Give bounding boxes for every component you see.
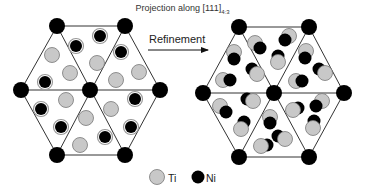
vertex-atom-icon bbox=[301, 19, 317, 35]
ni-atom-icon bbox=[296, 75, 309, 88]
ni-atom-icon bbox=[192, 171, 205, 184]
panel-after-refinement bbox=[195, 19, 352, 165]
lattice-diagram bbox=[0, 0, 365, 192]
legend-ti-label: Ti bbox=[168, 172, 176, 184]
vertex-atom-icon bbox=[117, 18, 133, 34]
vertex-atom-icon bbox=[49, 18, 65, 34]
ni-atom-icon bbox=[264, 117, 277, 130]
title-text: Projection along [111] bbox=[135, 3, 221, 13]
ni-atom-icon bbox=[299, 52, 312, 65]
vertex-atom-icon bbox=[301, 149, 317, 165]
ni-atom-icon bbox=[220, 106, 233, 119]
ti-atom-icon bbox=[45, 48, 60, 63]
diagram-stage: Projection along [111]4:3 Refinement Ti … bbox=[0, 0, 365, 192]
figure-title: Projection along [111]4:3 bbox=[0, 3, 365, 15]
legend-markers bbox=[150, 170, 205, 185]
ti-atom-icon bbox=[246, 94, 261, 109]
ti-atom-icon bbox=[63, 66, 78, 81]
ni-atom-icon bbox=[129, 93, 141, 105]
ti-atom-icon bbox=[79, 111, 94, 126]
ti-atom-icon bbox=[73, 138, 88, 153]
ti-atom-icon bbox=[90, 56, 105, 71]
ti-atom-icon bbox=[271, 55, 286, 70]
ni-atom-icon bbox=[254, 42, 267, 55]
ti-atom-icon bbox=[104, 102, 119, 117]
title-subscript: 4:3 bbox=[221, 9, 229, 15]
ti-atom-icon bbox=[286, 103, 301, 118]
ni-atom-icon bbox=[279, 34, 292, 47]
ni-atom-icon bbox=[55, 121, 67, 133]
vertex-atom-icon bbox=[336, 85, 352, 101]
ti-atom-icon bbox=[250, 67, 265, 82]
ni-atom-icon bbox=[39, 76, 51, 88]
ni-atom-icon bbox=[228, 53, 241, 66]
ni-atom-icon bbox=[70, 40, 82, 52]
panel-before-refinement bbox=[13, 18, 168, 163]
ni-atom-icon bbox=[224, 74, 237, 87]
vertex-atom-icon bbox=[49, 147, 65, 163]
vertex-atom-icon bbox=[13, 82, 29, 98]
ti-atom-icon bbox=[132, 65, 147, 80]
ni-atom-icon bbox=[125, 121, 137, 133]
ti-atom-icon bbox=[150, 170, 165, 185]
refinement-label: Refinement bbox=[149, 33, 205, 45]
vertex-atom-icon bbox=[195, 85, 211, 101]
vertex-atom-icon bbox=[266, 85, 282, 101]
ti-atom-icon bbox=[306, 121, 321, 136]
ni-atom-icon bbox=[115, 46, 127, 58]
ni-atom-icon bbox=[99, 131, 111, 143]
ni-atom-icon bbox=[94, 30, 106, 42]
vertex-atom-icon bbox=[152, 82, 168, 98]
ti-atom-icon bbox=[234, 122, 249, 137]
ni-atom-icon bbox=[310, 100, 323, 113]
ti-atom-icon bbox=[318, 66, 333, 81]
ti-atom-icon bbox=[254, 139, 269, 154]
ti-atom-icon bbox=[109, 73, 124, 88]
vertex-atom-icon bbox=[231, 19, 247, 35]
vertex-atom-icon bbox=[117, 147, 133, 163]
vertex-atom-icon bbox=[82, 82, 98, 98]
vertex-atom-icon bbox=[231, 149, 247, 165]
ni-atom-icon bbox=[35, 103, 47, 115]
ti-atom-icon bbox=[278, 132, 293, 147]
ti-atom-icon bbox=[59, 93, 74, 108]
legend-ni-label: Ni bbox=[206, 172, 216, 184]
